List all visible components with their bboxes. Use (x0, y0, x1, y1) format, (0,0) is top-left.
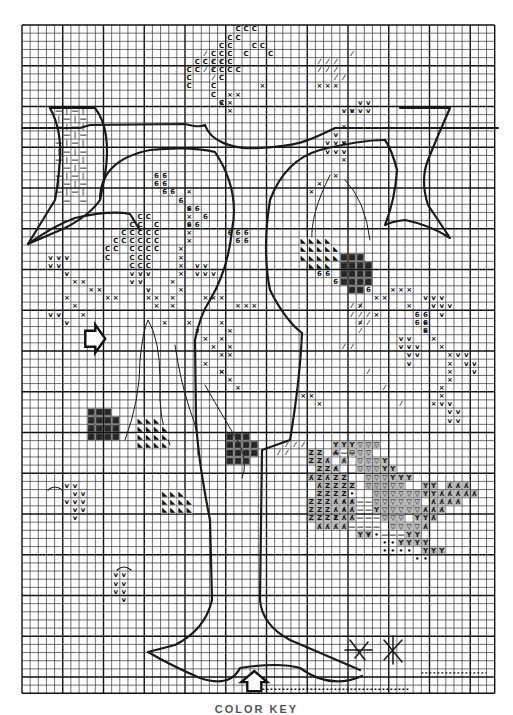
stitch-symbol: ▽ (382, 514, 388, 522)
stitch-symbol: Z (325, 506, 330, 514)
stitch-symbol: ◣ (154, 433, 160, 441)
stitch-symbol: × (235, 384, 241, 392)
stitch-symbol: Y (349, 441, 356, 449)
stitch-symbol: C (235, 25, 240, 33)
stitch-symbol: C (211, 82, 216, 90)
stitch-symbol: ▽ (415, 506, 421, 514)
stitch-symbol: v (464, 351, 469, 359)
stitch-symbol: × (186, 229, 192, 237)
stitch-symbol: × (219, 335, 225, 343)
stitch-symbol: ▽ (366, 449, 372, 457)
stitch-symbol: | (74, 115, 77, 123)
stitch-symbol: ▽ (374, 441, 380, 449)
stitch-symbol: × (80, 311, 86, 319)
stitch-symbol: Z (317, 457, 322, 465)
stitch-symbol: — (71, 156, 78, 164)
stitch-symbol: ⊘ (341, 270, 347, 278)
stitch-symbol: ⊘ (365, 262, 371, 270)
stitch-symbol: ⁄ (211, 74, 216, 82)
stitch-symbol: ⊘ (349, 262, 355, 270)
stitch-symbol: v (448, 408, 453, 416)
stitch-symbol: v (122, 571, 127, 579)
stitch-symbol: C (121, 229, 126, 237)
stitch-symbol: × (178, 270, 184, 278)
stitch-symbol: v (113, 571, 118, 579)
stitch-symbol: × (186, 213, 192, 221)
stitch-symbol: ⊘ (243, 449, 249, 457)
stitch-symbol: ⊘ (113, 417, 119, 425)
stitch-symbol: ⁄ (333, 74, 338, 82)
stitch-symbol: Y (373, 506, 380, 514)
stitch-symbol: × (431, 335, 437, 343)
stitch-symbol: 6 (154, 172, 159, 180)
stitch-symbol: ⁄ (349, 302, 354, 310)
stitch-symbol: — (71, 123, 78, 131)
stitch-symbol: | (74, 180, 77, 188)
stitch-symbol: C (219, 66, 224, 74)
stitch-symbol: — (55, 107, 62, 115)
stitch-symbol: ʎ (431, 506, 436, 514)
stitch-symbol: ʎ (325, 474, 330, 482)
stitch-symbol: v (358, 99, 363, 107)
stitch-symbol: ⊘ (349, 278, 355, 286)
stitch-symbol: | (57, 164, 60, 172)
stitch-symbol: v (464, 360, 469, 368)
stitch-symbol: × (406, 302, 412, 310)
stitch-symbol: ⊘ (105, 417, 111, 425)
stitch-symbol: C (121, 237, 126, 245)
stitch-symbol: × (154, 302, 160, 310)
stitch-symbol: ◣ (170, 506, 176, 514)
stitch-symbol: — (357, 523, 364, 531)
stitch-symbol: C (227, 50, 232, 58)
stitch-symbol: × (374, 294, 380, 302)
stitch-symbol: C (252, 42, 257, 50)
stitch-symbol: ◣ (309, 237, 315, 245)
stitch-symbol: 6 (366, 286, 371, 294)
stitch-symbol: ▽ (382, 474, 388, 482)
stitch-symbol: v (48, 262, 53, 270)
stitch-symbol: • (423, 555, 427, 563)
stitch-symbol: 6 (423, 319, 428, 327)
stitch-symbol: v (415, 351, 420, 359)
stitch-symbol: ⁄ (203, 66, 208, 74)
stitch-symbol: × (390, 286, 396, 294)
stitch-symbol: • (342, 498, 346, 506)
stitch-symbol: — (365, 523, 372, 531)
stitch-symbol: ʎ (333, 523, 338, 531)
stitch-symbol: ⊘ (235, 457, 241, 465)
stitch-symbol: — (80, 115, 87, 123)
left-x-column: ×××××××××××××× (170, 188, 192, 310)
stitch-symbol: | (57, 115, 60, 123)
stitch-symbol: × (88, 286, 94, 294)
stitch-symbol: ▽ (398, 523, 404, 531)
stitch-symbol: v (113, 588, 118, 596)
stitch-symbol: ʎ (325, 457, 330, 465)
stitch-symbol: v (73, 498, 78, 506)
stitch-symbol: ◣ (333, 254, 339, 262)
stitch-symbol: ▽ (382, 482, 388, 490)
stitch-symbol: Z (333, 474, 338, 482)
stitch-symbol: × (211, 343, 217, 351)
stitch-symbol: C (187, 74, 192, 82)
stitch-symbol: ◣ (300, 254, 306, 262)
stitch-symbol: | (74, 131, 77, 139)
stitch-symbol: v (113, 580, 118, 588)
stitch-symbol: ⁄ (358, 311, 363, 319)
stitch-symbol: ʎ (309, 474, 314, 482)
stitch-symbol: v (342, 107, 347, 115)
stitch-symbol: ◣ (317, 237, 323, 245)
stitch-symbol: C (219, 42, 224, 50)
stitch-symbol: ⁄ (341, 343, 346, 351)
stitch-symbol: ⁄ (317, 58, 322, 66)
stitch-symbol: C (211, 91, 216, 99)
stitch-symbol: × (243, 302, 249, 310)
stitch-symbol: Z (333, 490, 338, 498)
stitch-symbol: × (113, 294, 119, 302)
stitch-symbol: C (219, 50, 224, 58)
stitch-symbol: v (456, 417, 461, 425)
stitch-symbol: ⊘ (96, 408, 102, 416)
stitch-symbol: Z (309, 506, 314, 514)
stitch-symbol: × (211, 294, 217, 302)
stitch-symbol: × (202, 294, 208, 302)
